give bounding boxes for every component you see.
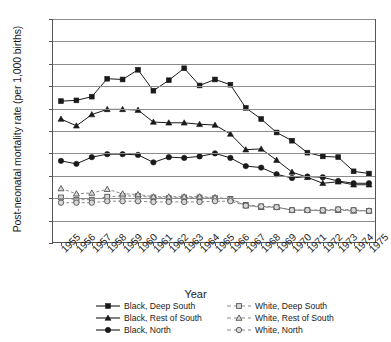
data-point-filled-triangle — [73, 123, 79, 128]
data-point-filled-circle — [151, 160, 156, 165]
data-point-filled-square — [105, 76, 110, 81]
gridline — [53, 221, 375, 222]
data-point-filled-circle — [74, 161, 79, 166]
legend-key-filled-triangle-icon — [96, 313, 120, 323]
legend-item: Black, Deep South — [96, 300, 227, 312]
gridline — [53, 64, 375, 65]
data-point-filled-square — [136, 67, 141, 72]
data-point-open-circle — [58, 200, 63, 205]
y-axis-tick — [49, 221, 53, 222]
data-point-filled-square — [89, 94, 94, 99]
legend-item: Black, Rest of South — [96, 312, 227, 324]
data-point-open-square — [237, 304, 242, 309]
data-point-open-circle — [351, 207, 356, 212]
data-point-filled-triangle — [58, 116, 64, 121]
data-point-open-circle — [182, 199, 187, 204]
chart-figure: Post-neonatal mortality rate (per 1,000 … — [0, 0, 391, 342]
data-point-filled-circle — [228, 155, 233, 160]
data-point-open-circle — [120, 198, 125, 203]
data-point-open-circle — [228, 198, 233, 203]
data-point-filled-square — [213, 77, 218, 82]
data-point-filled-circle — [351, 181, 356, 186]
data-point-filled-triangle — [274, 157, 280, 162]
y-axis-tick — [49, 86, 53, 87]
y-axis-tick — [49, 243, 53, 244]
data-point-filled-circle — [336, 178, 341, 183]
plot-area: 0369121518212427301955195619571958195919… — [52, 19, 376, 243]
legend-label: White, Deep South — [255, 302, 327, 311]
data-point-filled-square — [151, 88, 156, 93]
y-axis-tick — [49, 153, 53, 154]
data-point-open-circle — [236, 327, 241, 332]
data-point-open-circle — [105, 198, 110, 203]
data-point-open-circle — [336, 207, 341, 212]
gridline — [53, 41, 375, 42]
legend-label: Black, North — [124, 326, 171, 335]
data-point-open-circle — [166, 199, 171, 204]
gridline — [53, 198, 375, 199]
data-point-open-circle — [197, 199, 202, 204]
data-point-open-circle — [259, 204, 264, 209]
data-point-filled-circle — [366, 181, 371, 186]
gridline — [53, 19, 375, 20]
y-axis-tick — [49, 176, 53, 177]
gridline — [53, 131, 375, 132]
data-point-filled-circle — [243, 163, 248, 168]
data-point-open-circle — [274, 204, 279, 209]
data-point-filled-circle — [182, 155, 187, 160]
data-point-filled-square — [59, 99, 64, 104]
legend-label: White, North — [255, 326, 303, 335]
data-point-open-circle — [289, 207, 294, 212]
data-point-open-circle — [212, 198, 217, 203]
y-axis-tick — [49, 64, 53, 65]
y-axis-tick — [49, 131, 53, 132]
chart-legend: Black, Deep SouthWhite, Deep SouthBlack,… — [96, 300, 376, 336]
data-point-filled-square — [290, 138, 295, 143]
y-axis-tick — [49, 198, 53, 199]
gridline — [53, 153, 375, 154]
y-axis-tick — [49, 41, 53, 42]
legend-item: White, Rest of South — [227, 312, 376, 324]
data-point-filled-circle — [166, 154, 171, 159]
data-point-filled-circle — [89, 154, 94, 159]
figure-caption-cutoff — [0, 334, 391, 342]
data-point-filled-square — [120, 77, 125, 82]
legend-label: Black, Rest of South — [124, 314, 202, 323]
series-black-deep-south — [59, 66, 372, 176]
data-point-filled-square — [351, 169, 356, 174]
y-axis-tick — [49, 19, 53, 20]
y-axis-title: Post-neonatal mortality rate (per 1,000 … — [11, 16, 23, 242]
data-point-filled-square — [259, 117, 264, 122]
data-point-filled-circle — [197, 154, 202, 159]
data-point-open-triangle — [58, 185, 64, 190]
data-point-filled-square — [106, 304, 111, 309]
data-point-open-circle — [135, 198, 140, 203]
gridline — [53, 109, 375, 110]
series-white-north — [58, 198, 371, 213]
data-point-filled-circle — [58, 158, 63, 163]
data-point-open-circle — [243, 203, 248, 208]
legend-label: White, Rest of South — [255, 314, 334, 323]
data-point-filled-circle — [105, 327, 110, 332]
x-axis-title: Year — [0, 288, 391, 300]
legend-item: White, Deep South — [227, 300, 376, 312]
data-point-open-triangle — [104, 186, 110, 191]
data-point-open-circle — [305, 207, 310, 212]
series-line — [61, 109, 369, 184]
legend-label: Black, Deep South — [124, 302, 195, 311]
data-point-open-circle — [74, 200, 79, 205]
gridline — [53, 86, 375, 87]
data-point-open-circle — [366, 208, 371, 213]
data-point-filled-circle — [259, 165, 264, 170]
data-point-open-circle — [320, 207, 325, 212]
data-point-open-circle — [151, 199, 156, 204]
legend-key-filled-square-icon — [96, 301, 120, 311]
y-axis-tick — [49, 109, 53, 110]
data-point-filled-square — [74, 98, 79, 103]
legend-key-open-triangle-icon — [227, 313, 251, 323]
gridline — [53, 176, 375, 177]
data-point-filled-square — [336, 155, 341, 160]
data-point-filled-square — [320, 154, 325, 159]
data-point-filled-square — [182, 66, 187, 71]
data-point-open-circle — [89, 200, 94, 205]
